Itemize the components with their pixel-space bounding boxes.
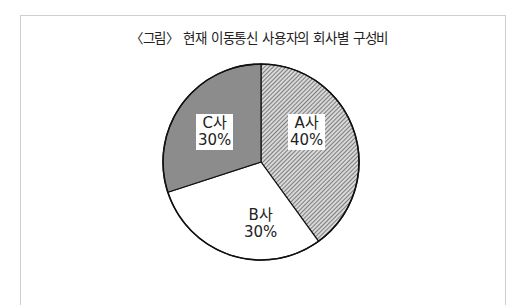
label-c: C사 30% [196,114,233,150]
label-a: A사 40% [288,114,325,150]
label-b-value: 30% [244,224,277,241]
label-b-name: B사 [244,207,277,224]
label-a-value: 40% [290,132,323,149]
label-c-name: C사 [198,115,231,132]
label-c-value: 30% [198,132,231,149]
label-a-name: A사 [290,115,323,132]
label-b: B사 30% [242,206,279,242]
